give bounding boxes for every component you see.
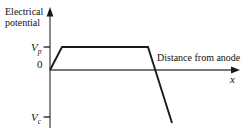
y-axis-title-line1: Electrical [5,6,43,17]
vp-symbol: V [31,41,38,53]
vc-subscript: c [38,117,41,126]
y-axis-title-line2: potential [5,17,43,28]
y-axis-arrowhead [47,7,54,17]
y-tick-label-zero: 0 [37,58,43,70]
x-axis-title: Distance from anode [157,52,240,63]
y-tick-label-vp: Vp [31,41,41,53]
vc-symbol: V [31,111,38,123]
y-tick-label-vc: Vc [31,111,41,123]
vp-subscript: p [38,47,42,56]
potential-curve [50,47,172,123]
y-axis-title: Electrical potential [5,6,43,28]
potential-profile-figure: Electrical potential Distance from anode… [0,0,249,132]
x-axis-variable-label: x [230,73,235,85]
